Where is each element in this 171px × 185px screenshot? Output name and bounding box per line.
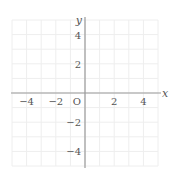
y-axis-label: y (75, 14, 83, 27)
y-tick-label: 4 (75, 30, 81, 41)
x-tick-label: 4 (140, 96, 146, 107)
coordinate-plane: −4−22442−2−4 x y O (0, 0, 171, 185)
origin-label: O (73, 96, 81, 107)
y-tick-label: −4 (66, 146, 81, 157)
x-tick-label: −4 (19, 96, 34, 107)
x-axis-label: x (162, 87, 169, 100)
axes (11, 17, 161, 168)
x-tick-label: 2 (111, 96, 117, 107)
y-tick-label: 2 (75, 59, 81, 70)
x-tick-label: −2 (48, 96, 63, 107)
y-tick-label: −2 (66, 117, 81, 128)
